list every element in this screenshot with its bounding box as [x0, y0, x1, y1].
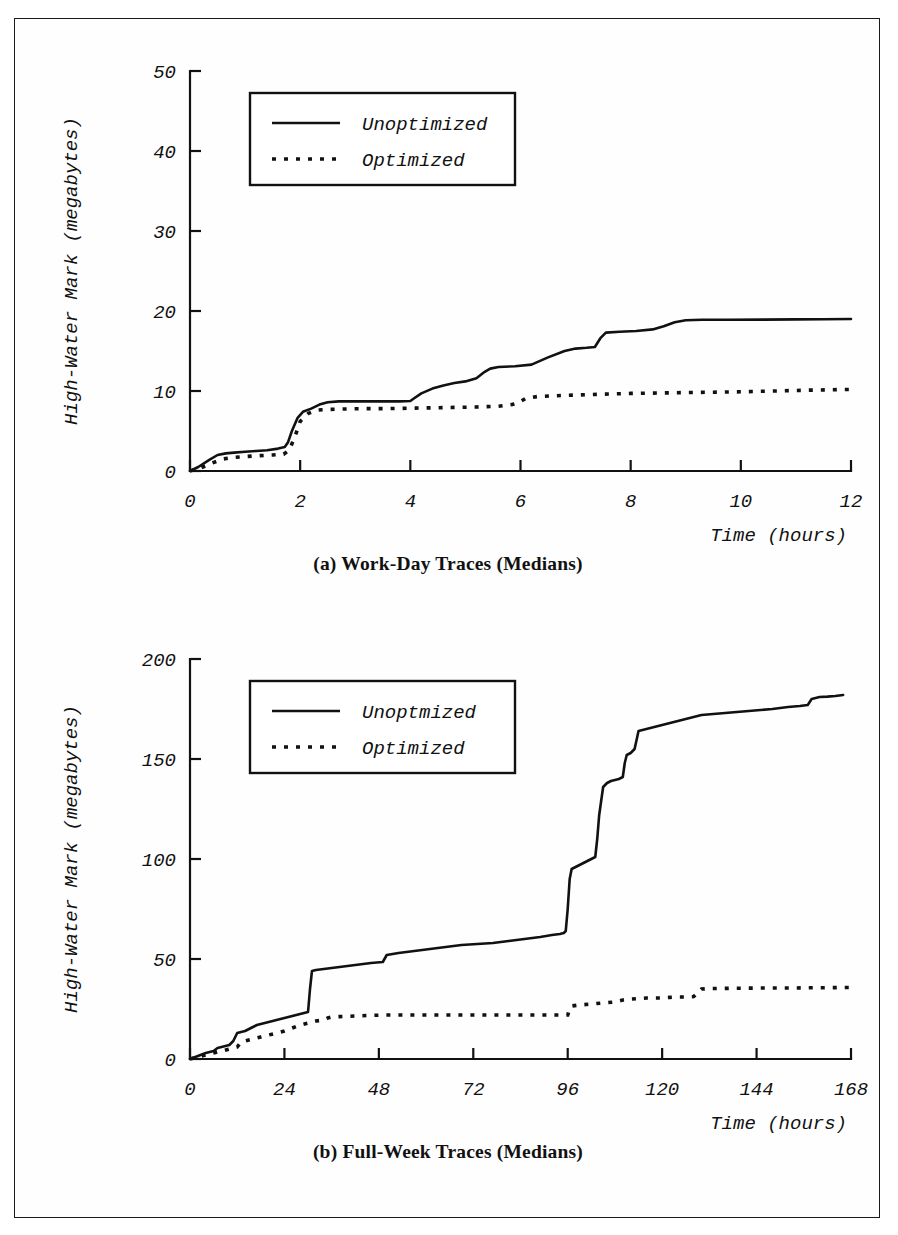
x-axis-tick-label: 12 [840, 491, 863, 513]
plot-area-a: 01020304050024681012Time (hours)High-Wat… [15, 31, 881, 551]
x-axis-tick-label: 4 [405, 491, 416, 513]
series-line-optimized [190, 987, 851, 1059]
y-axis-tick-label: 50 [153, 950, 176, 972]
chart-legend: UnoptimizedOptimized [250, 93, 515, 185]
series-line-optimized [190, 389, 851, 471]
y-axis-tick-label: 40 [153, 142, 176, 164]
figure-b-caption: (b) Full-Week Traces (Medians) [15, 1141, 881, 1163]
chart-legend: UnoptmizedOptimized [250, 681, 515, 773]
y-axis-tick-label: 150 [142, 750, 176, 772]
figure-a: 01020304050024681012Time (hours)High-Wat… [15, 31, 881, 611]
x-axis-tick-label: 72 [462, 1079, 485, 1101]
y-axis-tick-label: 20 [153, 302, 176, 324]
x-axis-tick-label: 96 [556, 1079, 579, 1101]
x-axis-tick-label: 0 [184, 491, 195, 513]
y-axis-tick-label: 30 [153, 222, 176, 244]
chart-a-svg: 01020304050024681012Time (hours)High-Wat… [15, 31, 881, 551]
figure-a-caption: (a) Work-Day Traces (Medians) [15, 553, 881, 575]
y-axis-title: High-Water Mark (megabytes) [61, 705, 83, 1013]
x-axis-tick-label: 2 [294, 491, 305, 513]
x-axis-tick-label: 48 [367, 1079, 390, 1101]
y-axis-title: High-Water Mark (megabytes) [61, 117, 83, 425]
x-axis-tick-label: 8 [625, 491, 636, 513]
y-axis-tick-label: 0 [165, 1050, 176, 1072]
y-axis-tick-label: 100 [142, 850, 176, 872]
x-axis-tick-label: 24 [273, 1079, 296, 1101]
series-line-unoptimized [190, 319, 851, 471]
x-axis-tick-label: 10 [729, 491, 752, 513]
x-axis-tick-label: 120 [645, 1079, 679, 1101]
legend-label: Unoptimized [362, 114, 488, 136]
x-axis-tick-label: 168 [834, 1079, 868, 1101]
legend-label: Unoptmized [362, 702, 477, 724]
plot-area-b: 050100150200024487296120144168Time (hour… [15, 619, 881, 1139]
x-axis-tick-label: 6 [515, 491, 526, 513]
chart-b-svg: 050100150200024487296120144168Time (hour… [15, 619, 881, 1139]
y-axis-tick-label: 200 [142, 650, 176, 672]
x-axis-title: Time (hours) [710, 1113, 847, 1135]
y-axis-tick-label: 50 [153, 62, 176, 84]
x-axis-title: Time (hours) [710, 525, 847, 547]
y-axis-tick-label: 10 [153, 382, 176, 404]
legend-label: Optimized [362, 738, 465, 760]
legend-label: Optimized [362, 150, 465, 172]
figure-b: 050100150200024487296120144168Time (hour… [15, 619, 881, 1209]
x-axis-tick-label: 0 [184, 1079, 195, 1101]
x-axis-tick-label: 144 [739, 1079, 773, 1101]
y-axis-tick-label: 0 [165, 462, 176, 484]
figure-page-border: 01020304050024681012Time (hours)High-Wat… [14, 18, 880, 1218]
